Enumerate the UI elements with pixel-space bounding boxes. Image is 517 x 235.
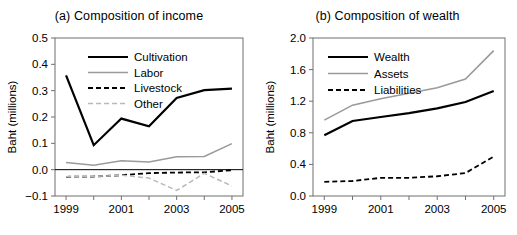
x-tick-label: 2001 [109, 203, 135, 215]
y-tick-label: 0.4 [32, 58, 49, 70]
figure-root: (a) Composition of income −0.10.00.10.20… [0, 0, 517, 235]
legend-label-cultivation: Cultivation [134, 51, 188, 63]
y-tick-label: 0.0 [290, 190, 306, 202]
y-axis-title: Baht (millions) [264, 80, 276, 153]
y-tick-label: 1.6 [290, 64, 306, 76]
x-tick-label: 1999 [311, 203, 337, 215]
y-tick-label: 0.5 [32, 32, 48, 44]
series-line-liabilities [324, 157, 493, 182]
legend-label-liabilities: Liabilities [374, 84, 422, 96]
chart-panel-wealth: (b) Composition of wealth 0.00.40.81.21.… [258, 0, 517, 235]
series-line-other [66, 173, 232, 190]
y-tick-label: 0.3 [32, 85, 48, 97]
y-tick-label: 0.2 [32, 111, 48, 123]
series-line-wealth [324, 91, 493, 135]
x-tick-label: 1999 [53, 203, 79, 215]
y-tick-label: 0.8 [290, 127, 306, 139]
legend-label-livestock: Livestock [134, 82, 182, 94]
income-line-chart: −0.10.00.10.20.30.40.51999200120032005Ba… [0, 0, 258, 235]
legend-label-assets: Assets [374, 68, 409, 80]
x-tick-label: 2003 [424, 203, 450, 215]
y-tick-label: 0.4 [290, 158, 307, 170]
legend-label-labor: Labor [134, 67, 164, 79]
x-tick-label: 2005 [219, 203, 245, 215]
series-line-labor [66, 144, 232, 166]
chart-panel-income: (a) Composition of income −0.10.00.10.20… [0, 0, 258, 235]
y-tick-label: 2.0 [290, 32, 306, 44]
x-tick-label: 2001 [368, 203, 394, 215]
legend-label-wealth: Wealth [374, 51, 410, 63]
legend-label-other: Other [134, 98, 163, 110]
x-tick-label: 2003 [164, 203, 190, 215]
y-tick-label: 1.2 [290, 95, 306, 107]
y-tick-label: −0.1 [25, 190, 48, 202]
y-tick-label: 0.1 [32, 137, 48, 149]
y-axis-title: Baht (millions) [6, 80, 18, 153]
wealth-line-chart: 0.00.40.81.21.62.01999200120032005Baht (… [258, 0, 517, 235]
y-tick-label: 0.0 [32, 164, 48, 176]
x-tick-label: 2005 [481, 203, 507, 215]
